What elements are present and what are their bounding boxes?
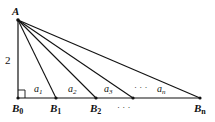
point-b3 bbox=[131, 96, 134, 99]
segment-abn bbox=[18, 20, 200, 98]
label-bn: Bn bbox=[193, 102, 206, 116]
point-b0 bbox=[16, 96, 19, 99]
label-b1: B1 bbox=[49, 102, 61, 116]
label-b0: B0 bbox=[11, 102, 23, 116]
point-ellipsis: · · · bbox=[117, 102, 131, 112]
label-a: A bbox=[11, 5, 19, 17]
segment-ellipsis: · · · bbox=[134, 82, 148, 92]
label-b2: B2 bbox=[89, 102, 101, 116]
label-a2: a2 bbox=[68, 83, 77, 96]
point-a bbox=[16, 18, 20, 22]
label-an: an bbox=[157, 83, 166, 96]
label-a3: a3 bbox=[104, 83, 113, 96]
label-height: 2 bbox=[5, 54, 11, 66]
point-b2 bbox=[94, 96, 97, 99]
point-b1 bbox=[54, 96, 57, 99]
point-bn bbox=[198, 96, 201, 99]
segment-ab2 bbox=[18, 20, 96, 98]
geometry-diagram: A 2 B0 B1 B2 · · · Bn a1 a2 a3 · · · an bbox=[0, 0, 215, 122]
label-a1: a1 bbox=[34, 83, 43, 96]
